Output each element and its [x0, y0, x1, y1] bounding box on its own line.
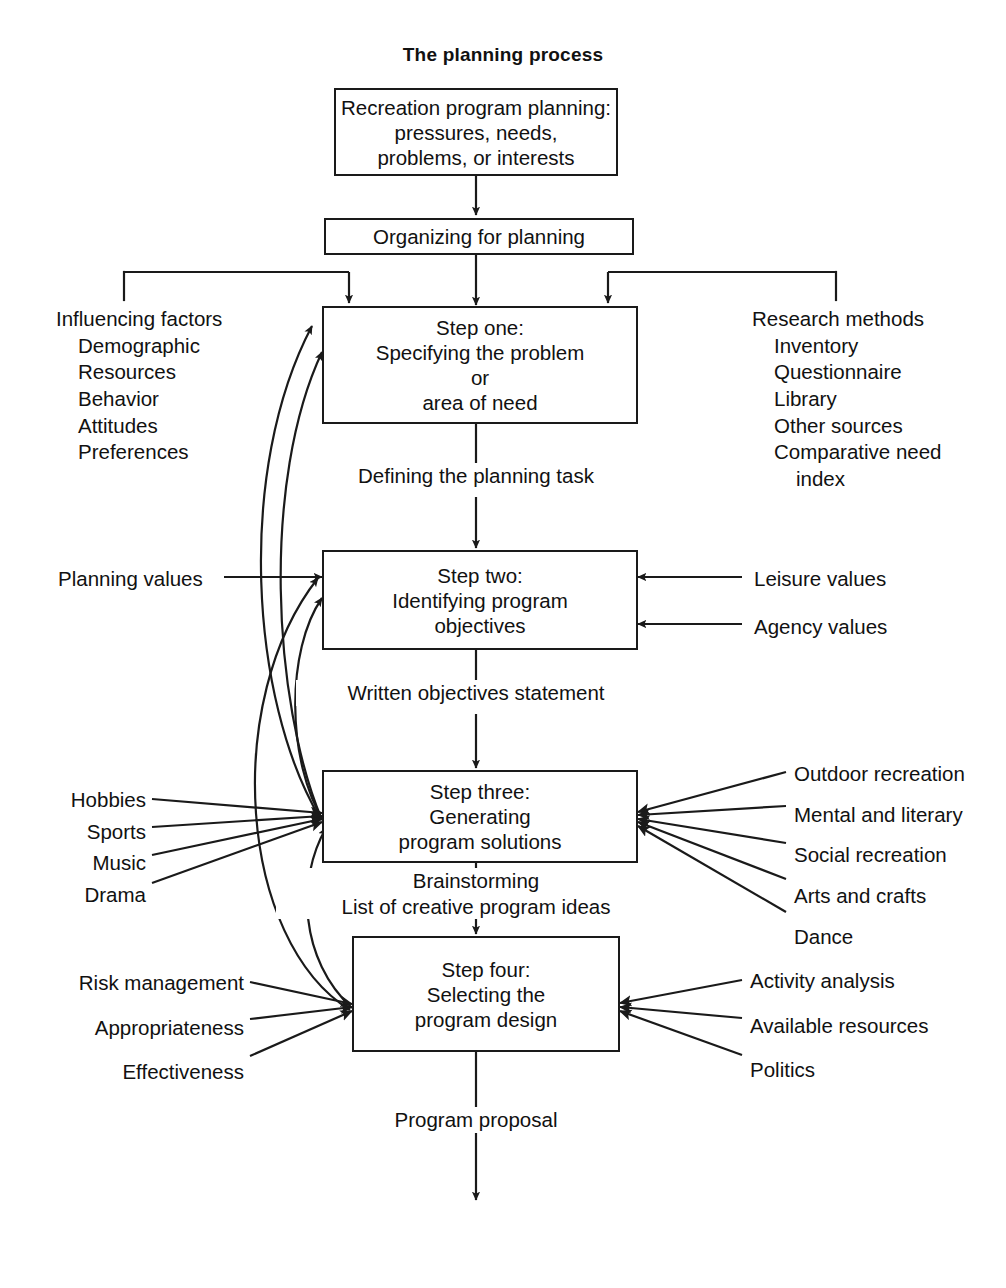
node-line: Organizing for planning [373, 224, 585, 249]
group-heading: Research methods [752, 306, 942, 333]
group-item: Outdoor recreation [794, 761, 965, 788]
group-influencing-factors: Influencing factors Demographic Resource… [56, 306, 222, 466]
group-item: Questionnaire [752, 359, 942, 386]
node-line: objectives [434, 613, 525, 638]
node-organizing-for-planning: Organizing for planning [324, 218, 634, 255]
group-item: Demographic [56, 333, 222, 360]
node-line: Generating [429, 804, 530, 829]
group-item: Leisure values [754, 566, 887, 593]
caption-defining-the-planning-task: Defining the planning task [296, 463, 656, 489]
node-step-two: Step two: Identifying program objectives [322, 550, 638, 650]
group-item: Agency values [754, 614, 887, 641]
group-item: Attitudes [56, 413, 222, 440]
planning-process-diagram: The planning process Recreation program … [0, 0, 1006, 1288]
group-item: Preferences [56, 439, 222, 466]
group-step-four-right-inputs: Activity analysis Available resources Po… [750, 968, 929, 1084]
node-line: Recreation program planning: [341, 95, 611, 120]
group-step-two-inputs: Leisure values Agency values [754, 566, 887, 640]
node-line: Selecting the [427, 982, 546, 1007]
group-planning-values: Planning values [58, 566, 203, 593]
group-item: Resources [56, 359, 222, 386]
node-line: pressures, needs, [395, 120, 558, 145]
group-step-three-left-inputs: Hobbies Sports Music Drama [0, 787, 146, 909]
node-step-three: Step three: Generating program solutions [322, 770, 638, 863]
node-step-four: Step four: Selecting the program design [352, 936, 620, 1052]
group-item: Library [752, 386, 942, 413]
node-line: Step one: [436, 315, 524, 340]
caption-written-objectives-statement: Written objectives statement [296, 680, 656, 706]
node-line: area of need [422, 390, 537, 415]
group-step-three-right-inputs: Outdoor recreation Mental and literary S… [794, 761, 965, 950]
node-line: problems, or interests [377, 145, 574, 170]
group-item: Inventory [752, 333, 942, 360]
node-step-one: Step one: Specifying the problem or area… [322, 306, 638, 424]
caption-program-proposal: Program proposal [296, 1107, 656, 1133]
group-item: Available resources [750, 1013, 929, 1040]
node-line: or [471, 365, 489, 390]
group-item: Sports [0, 819, 146, 846]
group-item: Behavior [56, 386, 222, 413]
group-item: Hobbies [0, 787, 146, 814]
group-item: Planning values [58, 566, 203, 593]
node-line: program solutions [399, 829, 562, 854]
group-item: Arts and crafts [794, 883, 965, 910]
group-item: Music [0, 850, 146, 877]
group-item: Comparative need [752, 439, 942, 466]
group-step-four-left-inputs: Risk management Appropriateness Effectiv… [0, 970, 244, 1086]
diagram-title: The planning process [0, 44, 1006, 66]
group-item: Risk management [0, 970, 244, 997]
group-item: Dance [794, 924, 965, 951]
group-heading: Influencing factors [56, 306, 222, 333]
group-item: Social recreation [794, 842, 965, 869]
caption-brainstorming: Brainstorming List of creative program i… [276, 868, 676, 919]
group-item: Effectiveness [0, 1059, 244, 1086]
group-item: Drama [0, 882, 146, 909]
group-research-methods: Research methods Inventory Questionnaire… [752, 306, 942, 492]
node-line: Step three: [430, 779, 530, 804]
node-line: Step four: [442, 957, 531, 982]
node-line: program design [415, 1007, 557, 1032]
node-line: Specifying the problem [376, 340, 585, 365]
node-line: Identifying program [392, 588, 567, 613]
group-item: Politics [750, 1057, 929, 1084]
node-recreation-program-planning: Recreation program planning: pressures, … [334, 88, 618, 176]
node-line: Step two: [437, 563, 522, 588]
group-item: Activity analysis [750, 968, 929, 995]
group-item: Mental and literary [794, 802, 965, 829]
group-item: Other sources [752, 413, 942, 440]
group-item: index [752, 466, 942, 493]
group-item: Appropriateness [0, 1015, 244, 1042]
